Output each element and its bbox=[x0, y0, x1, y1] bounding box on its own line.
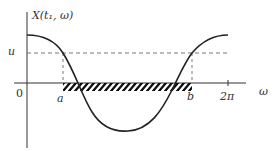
x-axis-label: ω bbox=[259, 86, 268, 97]
origin-label: 0 bbox=[16, 88, 23, 99]
a-label: a bbox=[57, 93, 64, 104]
two-pi-label: 2π bbox=[220, 91, 234, 102]
level-crossing-diagram: X(t₁, ω) u 0 a b 2π ω bbox=[0, 0, 278, 151]
y-axis-label: X(t₁, ω) bbox=[32, 10, 73, 21]
diagram-canvas bbox=[0, 0, 278, 151]
level-u-label: u bbox=[8, 46, 15, 57]
b-label: b bbox=[187, 91, 194, 102]
